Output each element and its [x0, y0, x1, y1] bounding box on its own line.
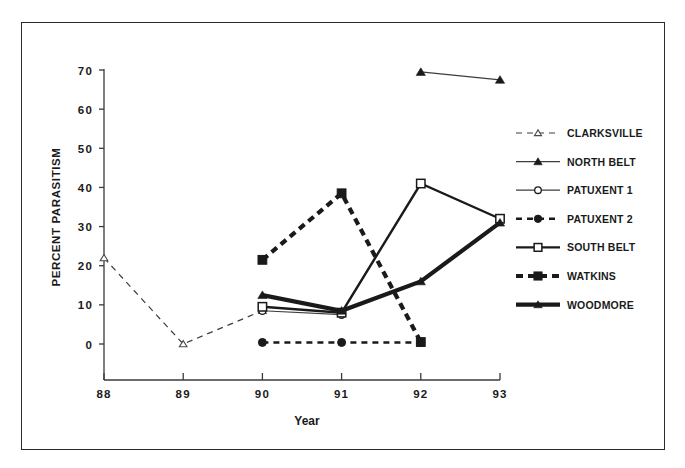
- y-tick-label: 70: [78, 65, 93, 77]
- series-watkins: [258, 189, 425, 347]
- marker-circle-filled: [534, 215, 541, 222]
- legend-item-patuxent-2[interactable]: PATUXENT 2: [516, 213, 633, 225]
- y-tick-label: 20: [78, 260, 93, 272]
- legend-item-patuxent-1[interactable]: PATUXENT 1: [516, 184, 633, 196]
- marker-circle-open: [535, 187, 542, 194]
- marker-circle-filled: [258, 338, 266, 346]
- x-tick-label: 93: [492, 388, 507, 400]
- y-tick-label: 10: [78, 299, 93, 311]
- series-north-belt: [416, 68, 504, 83]
- legend-label: PATUXENT 2: [567, 213, 633, 225]
- x-tick-label: 92: [413, 388, 428, 400]
- line-chart-canvas: 010203040506070888990919293 PERCENT PARA…: [0, 0, 685, 468]
- legend-label: WATKINS: [567, 270, 616, 282]
- legend-label: PATUXENT 1: [567, 184, 633, 196]
- legend-label: CLARKSVILLE: [567, 127, 643, 139]
- marker-square-filled: [416, 338, 425, 347]
- marker-triangle-filled: [416, 68, 425, 76]
- x-tick-label: 91: [334, 388, 349, 400]
- y-tick-label: 60: [78, 104, 93, 116]
- legend-item-north-belt[interactable]: NORTH BELT: [516, 156, 636, 168]
- y-tick-label: 50: [78, 143, 93, 155]
- marker-circle-filled: [338, 338, 346, 346]
- x-axis-title: Year: [294, 414, 320, 428]
- legend-item-watkins[interactable]: WATKINS: [516, 270, 616, 282]
- x-tick-label: 90: [255, 388, 270, 400]
- y-axis-title: PERCENT PARASITISM: [50, 147, 62, 286]
- legend-label: NORTH BELT: [567, 156, 636, 168]
- y-tick-label: 40: [78, 182, 93, 194]
- legend-item-woodmore[interactable]: WOODMORE: [516, 299, 634, 311]
- marker-square-filled: [258, 255, 267, 264]
- series-clarksville: [100, 254, 266, 346]
- chart-figure: 010203040506070888990919293 PERCENT PARA…: [0, 0, 685, 468]
- marker-square-open: [417, 179, 425, 187]
- legend-label: WOODMORE: [567, 299, 634, 311]
- legend-item-south-belt[interactable]: SOUTH BELT: [516, 241, 636, 253]
- marker-square-open: [534, 244, 542, 252]
- data-series: [100, 68, 504, 347]
- series-patuxent-2: [258, 338, 424, 346]
- legend-label: SOUTH BELT: [567, 241, 636, 253]
- marker-square-filled: [337, 189, 346, 198]
- marker-triangle-open: [100, 254, 108, 260]
- x-tick-label: 89: [176, 388, 191, 400]
- chart-legend[interactable]: CLARKSVILLENORTH BELTPATUXENT 1PATUXENT …: [516, 127, 643, 311]
- series-line: [262, 193, 420, 342]
- series-line: [104, 258, 262, 344]
- y-tick-label: 0: [85, 339, 93, 351]
- series-line: [421, 72, 500, 80]
- marker-square-open: [258, 303, 266, 311]
- x-tick-label: 88: [96, 388, 111, 400]
- marker-square-filled: [534, 272, 542, 280]
- legend-item-clarksville[interactable]: CLARKSVILLE: [516, 127, 643, 139]
- y-tick-label: 30: [78, 221, 93, 233]
